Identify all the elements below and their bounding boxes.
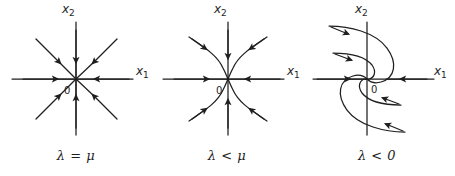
axis-label-x1: x1 <box>434 64 447 80</box>
trajectory-ray-nw <box>36 39 60 63</box>
panel-caption-2: λ < μ <box>151 148 303 163</box>
trajectory-spiral-outer-upper-arrow <box>331 27 348 34</box>
trajectory-spiral-inner-lower-arrow <box>383 98 399 104</box>
trajectory-spiral-inner-upper-arrow <box>335 54 351 60</box>
phase-portrait-panel-1: x2 x1 0 λ = μ <box>0 0 152 176</box>
trajectory-spiral-outer-lower-arrow <box>386 124 403 131</box>
axis-label-x2: x2 <box>355 2 368 18</box>
trajectory-curve-nw <box>189 37 228 79</box>
trajectory-tail-nw <box>58 61 76 79</box>
trajectory-arrow-sw <box>192 109 206 119</box>
trajectory-ray-se <box>93 95 117 119</box>
axis-label-x2: x2 <box>214 2 227 18</box>
trajectory-ray-sw <box>36 95 60 119</box>
phase-diagram-improper-node <box>151 0 303 150</box>
trajectory-spiral-inner-upper <box>333 53 375 79</box>
trajectory-arrow-ne <box>250 39 264 49</box>
trajectory-arrow-se <box>250 109 264 119</box>
phase-diagram-star-node <box>0 0 152 150</box>
origin-label: 0 <box>216 85 222 96</box>
trajectory-curve-ne <box>228 37 267 79</box>
trajectory-curve-se <box>228 79 267 121</box>
panel-caption-1: λ = μ <box>0 148 152 163</box>
phase-diagram-spiral-focus <box>301 0 453 150</box>
trajectory-tail-se <box>76 79 95 97</box>
axis-label-x1: x1 <box>287 64 300 80</box>
trajectory-spiral-inner-lower <box>359 79 401 105</box>
origin-label: 0 <box>64 85 70 96</box>
panel-caption-3: λ < 0 <box>301 148 453 163</box>
trajectory-spiral-outer-upper <box>329 26 394 83</box>
trajectory-ray-ne <box>93 39 117 63</box>
axis-label-x1: x1 <box>136 64 149 80</box>
trajectory-arrow-nw <box>192 39 206 49</box>
trajectory-tail-ne <box>76 61 95 79</box>
phase-portrait-panel-2: x2 x1 0 λ < μ <box>151 0 303 176</box>
axis-label-x2: x2 <box>62 2 75 18</box>
phase-portrait-panel-3: x2 x1 0 λ < 0 <box>301 0 453 176</box>
origin-label: 0 <box>371 84 377 95</box>
phase-portrait-figure: x2 x1 0 λ = μ <box>0 0 455 176</box>
